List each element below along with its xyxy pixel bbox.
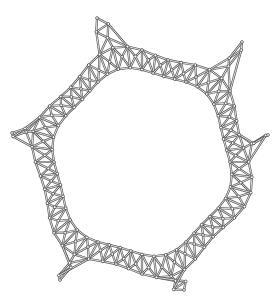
atom-node (108, 60, 111, 63)
framework-diagram (0, 0, 279, 306)
atom-node (208, 215, 211, 218)
atom-node (207, 81, 210, 84)
atom-node (194, 258, 197, 261)
bond-line (130, 56, 135, 67)
atom-node (184, 280, 187, 283)
atom-node (107, 23, 110, 26)
atom-node (217, 90, 220, 93)
bond-line (87, 237, 98, 242)
atom-node (184, 252, 187, 255)
atom-node (122, 257, 125, 260)
atom-node (152, 255, 155, 258)
atom-node (59, 184, 62, 187)
atom-node (42, 140, 45, 143)
bond-line (186, 82, 197, 87)
atom-node (76, 229, 79, 232)
atom-node (182, 72, 185, 75)
atom-node (229, 161, 232, 164)
atom-node (212, 103, 215, 106)
atom-node (193, 243, 196, 246)
atom-node (70, 96, 73, 99)
atom-node (62, 195, 65, 198)
bond-line (66, 208, 70, 220)
bond-line (74, 254, 88, 259)
atom-node (12, 135, 15, 138)
atom-node (43, 154, 46, 157)
atom-node (57, 219, 60, 222)
atom-node (227, 65, 230, 68)
atom-node (211, 226, 214, 229)
atom-node (80, 88, 83, 91)
bond-line (213, 227, 223, 236)
atom-node (98, 53, 101, 56)
atom-node (141, 253, 144, 256)
bond-line (70, 220, 77, 230)
atom-node (64, 114, 67, 117)
bond-line (54, 126, 59, 137)
atom-node (98, 69, 101, 72)
atom-node (111, 253, 114, 256)
atom-node (231, 142, 234, 145)
atom-node (152, 72, 155, 75)
atom-node (108, 243, 111, 246)
atom-node (224, 102, 227, 105)
atom-node (48, 217, 51, 220)
atom-node (249, 191, 252, 194)
atom-node (180, 61, 183, 64)
atom-node (155, 276, 158, 279)
bond-line (210, 70, 222, 79)
atom-node (53, 231, 56, 234)
atom-node (119, 246, 122, 249)
atom-node (78, 75, 81, 78)
bond-line (197, 87, 207, 94)
bond-line (195, 247, 204, 259)
bond-line (218, 198, 225, 208)
atom-node (159, 64, 162, 67)
bond-line (195, 65, 209, 70)
bond-line (61, 87, 71, 96)
bond-line (66, 107, 74, 115)
atom-node (235, 119, 238, 122)
bond-line (90, 82, 98, 91)
atom-node (115, 263, 118, 266)
atom-nodes (11, 17, 270, 292)
atom-node (240, 49, 243, 52)
atom-node (59, 279, 62, 282)
atom-node (129, 66, 132, 69)
atom-node (69, 218, 72, 221)
atom-node (25, 131, 28, 134)
atom-node (233, 217, 236, 220)
atom-node (251, 176, 254, 179)
atom-node (229, 90, 232, 93)
atom-node (87, 258, 90, 261)
atom-node (217, 114, 220, 117)
bond-line (214, 104, 218, 116)
bond-line (241, 177, 252, 182)
atom-node (99, 249, 102, 252)
atom-node (38, 116, 41, 119)
atom-node (202, 234, 205, 237)
atom-node (183, 268, 186, 271)
atom-node (52, 136, 55, 139)
atom-node (212, 235, 215, 238)
bond-line (118, 57, 122, 69)
atom-node (56, 172, 59, 175)
atom-node (34, 161, 37, 164)
atom-node (64, 207, 67, 210)
atom-node (53, 161, 56, 164)
atom-node (238, 167, 241, 170)
atom-node (48, 105, 51, 108)
atom-node (230, 129, 233, 132)
atom-node (53, 206, 56, 209)
atom-node (46, 202, 49, 205)
atom-node (252, 142, 255, 145)
bond-line (58, 116, 65, 126)
atom-node (141, 49, 144, 52)
atom-node (96, 17, 99, 20)
atom-node (228, 57, 231, 60)
atom-node (224, 197, 227, 200)
atom-node (222, 217, 225, 220)
atom-node (69, 266, 72, 269)
atom-node (52, 192, 55, 195)
atom-node (173, 78, 176, 81)
